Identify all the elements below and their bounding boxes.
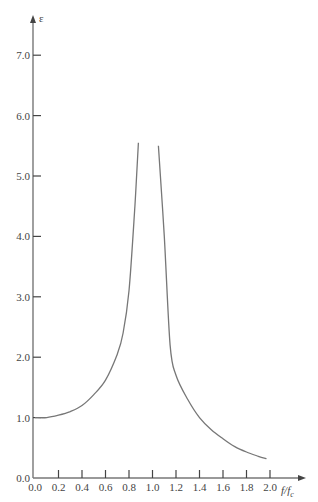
x-tick-label: 1.4 <box>193 481 207 493</box>
x-tick-label: 1.2 <box>169 481 183 493</box>
x-axis-label: f/fc <box>281 484 294 499</box>
y-tick-label: 1.0 <box>16 412 30 424</box>
y-tick-label: 4.0 <box>16 230 30 242</box>
chart: ε f/fc 0.01.02.03.04.05.06.07.0 0.00.20.… <box>0 0 318 502</box>
x-ticks: 0.00.20.40.60.81.01.21.41.61.82.0 <box>28 470 277 493</box>
y-axis-label: ε <box>39 12 44 24</box>
x-tick-label: 0.8 <box>122 481 136 493</box>
y-ticks: 0.01.02.03.04.05.06.07.0 <box>16 49 41 484</box>
y-tick-label: 3.0 <box>16 291 30 303</box>
x-tick-label: 0.2 <box>52 481 66 493</box>
axes: ε f/fc <box>30 12 306 499</box>
x-tick-label: 0.4 <box>75 481 89 493</box>
x-axis-arrow-icon <box>298 475 306 481</box>
x-tick-label: 1.8 <box>240 481 254 493</box>
y-tick-label: 2.0 <box>16 351 30 363</box>
y-axis-arrow-icon <box>30 15 36 23</box>
x-tick-label: 0.0 <box>28 481 42 493</box>
curves <box>35 143 267 459</box>
y-tick-label: 5.0 <box>16 170 30 182</box>
curve-above-resonance <box>158 146 266 459</box>
x-tick-label: 0.6 <box>99 481 113 493</box>
y-tick-label: 6.0 <box>16 110 30 122</box>
y-tick-label: 7.0 <box>16 49 30 61</box>
x-tick-label: 1.0 <box>146 481 160 493</box>
x-tick-label: 2.0 <box>263 481 277 493</box>
x-tick-label: 1.6 <box>216 481 230 493</box>
curve-below-resonance <box>35 143 138 418</box>
